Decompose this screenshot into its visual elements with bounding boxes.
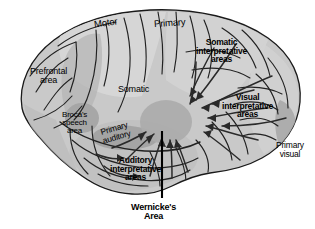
brain-illustration (0, 0, 315, 229)
brain-diagram-figure: Motor Primary Somaticinterpretativeareas… (0, 0, 315, 229)
